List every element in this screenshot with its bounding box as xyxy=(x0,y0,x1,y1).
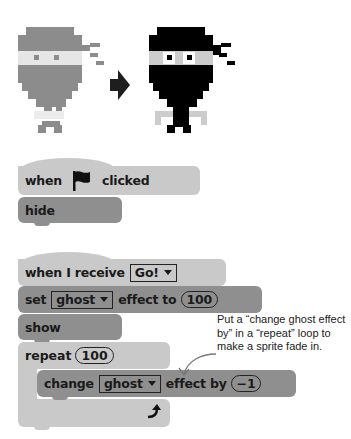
change-effect-block[interactable]: change ghost effect by −1 xyxy=(37,370,296,397)
show-block[interactable]: show xyxy=(18,314,122,340)
clicked-label: clicked xyxy=(102,173,149,188)
loop-arrow-icon xyxy=(146,404,162,420)
when-i-receive-hat-block[interactable]: when I receive Go! xyxy=(18,259,226,286)
hide-label: hide xyxy=(25,203,55,218)
set-effect-value: ghost xyxy=(56,292,95,307)
ninja-sprite xyxy=(147,25,239,135)
message-dropdown[interactable]: Go! xyxy=(130,264,177,282)
set-label: set xyxy=(25,292,46,307)
ghosted-ninja-sprite xyxy=(16,25,108,135)
effect-to-label: effect to xyxy=(118,292,176,307)
change-effect-dropdown[interactable]: ghost xyxy=(99,375,161,393)
set-effect-block[interactable]: set ghost effect to 100 xyxy=(18,286,262,313)
hide-block[interactable]: hide xyxy=(18,197,122,223)
set-effect-dropdown[interactable]: ghost xyxy=(51,291,113,309)
when-i-receive-label: when I receive xyxy=(25,265,125,280)
change-effect-value: ghost xyxy=(104,376,143,391)
show-label: show xyxy=(25,320,61,335)
dropdown-arrow-icon xyxy=(148,381,156,386)
set-effect-value-input[interactable]: 100 xyxy=(181,291,219,308)
annotation-text: Put a “change ghost effect by” in a “rep… xyxy=(217,313,347,354)
repeat-label: repeat xyxy=(25,348,71,363)
change-label: change xyxy=(44,376,94,391)
repeat-count-input[interactable]: 100 xyxy=(75,347,113,364)
when-label: when xyxy=(25,173,62,188)
annotation-pointer-arrow xyxy=(172,350,222,380)
right-arrow-icon xyxy=(110,70,130,100)
change-effect-value-input[interactable]: −1 xyxy=(231,375,262,392)
when-flag-clicked-hat-block[interactable]: when clicked xyxy=(18,166,200,195)
message-value: Go! xyxy=(135,265,159,280)
dropdown-arrow-icon xyxy=(100,297,108,302)
dropdown-arrow-icon xyxy=(164,270,172,275)
green-flag-icon xyxy=(72,170,92,192)
